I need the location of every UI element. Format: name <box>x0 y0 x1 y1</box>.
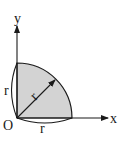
x-axis-label: x <box>110 111 117 126</box>
radius-left-label: r <box>4 83 9 98</box>
y-axis-label: y <box>14 11 21 26</box>
quarter-circle-diagram: y x O r r r <box>0 0 124 143</box>
radius-bottom-label: r <box>40 121 45 136</box>
diagram-canvas: y x O r r r <box>0 0 124 143</box>
left-dimension-arc <box>12 63 18 118</box>
origin-label: O <box>3 118 13 133</box>
